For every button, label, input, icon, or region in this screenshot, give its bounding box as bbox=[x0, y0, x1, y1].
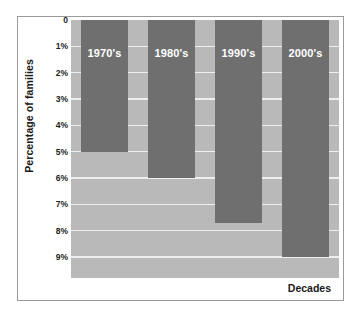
y-axis-tick-label: 6% bbox=[56, 173, 68, 183]
y-axis-tick-label: 2% bbox=[56, 68, 68, 78]
y-axis-tick-label: 4% bbox=[56, 120, 68, 130]
bar-1990s: 1990's bbox=[215, 20, 262, 223]
bar-2000s: 2000's bbox=[282, 20, 329, 257]
y-axis-title-text: Percentage of families bbox=[23, 59, 35, 173]
y-axis-tick-label: 9% bbox=[56, 252, 68, 262]
bar-label: 1990's bbox=[215, 47, 262, 59]
y-axis-title: Percentage of families bbox=[21, 33, 37, 199]
bar-label: 2000's bbox=[282, 47, 329, 59]
bar-1980s: 1980's bbox=[148, 20, 195, 178]
y-axis-tick-label: 3% bbox=[56, 94, 68, 104]
plot-area: 1970's1980's1990's2000's bbox=[71, 20, 339, 278]
chart-figure: Percentage of families 01%2%3%4%5%6%7%8%… bbox=[17, 16, 344, 301]
y-axis-tick-label: 8% bbox=[56, 226, 68, 236]
y-axis-tick-label: 5% bbox=[56, 147, 68, 157]
y-axis-tick-label: 1% bbox=[56, 41, 68, 51]
bar-series: 1970's1980's1990's2000's bbox=[71, 20, 339, 278]
bar-label: 1980's bbox=[148, 47, 195, 59]
bar-label: 1970's bbox=[81, 47, 128, 59]
x-axis-title: Decades bbox=[288, 282, 331, 294]
y-axis-tick-label: 7% bbox=[56, 199, 68, 209]
y-axis-tick-label: 0 bbox=[63, 15, 68, 25]
bar-1970s: 1970's bbox=[81, 20, 128, 152]
y-axis-tick-labels: 01%2%3%4%5%6%7%8%9% bbox=[37, 19, 70, 280]
